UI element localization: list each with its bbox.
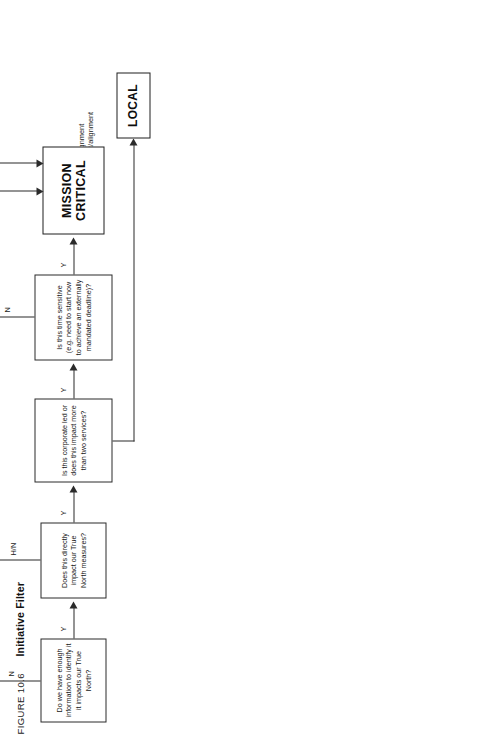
figure-title: Initiative Filter xyxy=(13,581,25,656)
outcome-mission-critical-line1: MISSION xyxy=(59,163,73,218)
decision-true-north-impact-label: Does this directly impact our True North… xyxy=(59,526,88,594)
outcome-mission-critical[interactable]: MISSION CRITICAL xyxy=(42,146,104,234)
edge-q1-no-line xyxy=(0,680,40,681)
decision-information-available-label: Do we have enough information to identif… xyxy=(54,642,92,718)
edge-label-q5-yes: Y xyxy=(58,386,67,393)
decision-information-available[interactable]: Do we have enough information to identif… xyxy=(40,638,106,722)
edge-label-q8-no: N xyxy=(2,306,11,313)
decision-true-north-impact[interactable]: Does this directly impact our True North… xyxy=(40,522,106,598)
edge-q1-yes-line xyxy=(73,606,74,638)
edge-q6-yes-arrow xyxy=(36,159,43,167)
outcome-mission-critical-line2: CRITICAL xyxy=(73,160,87,221)
flowchart-canvas: FIGURE 10.6 Initiative Filter Y=Yes N=No… xyxy=(0,0,487,748)
edge-q6-yes-v xyxy=(0,162,38,163)
edge-q7-yes-v2 xyxy=(0,190,38,191)
edge-q8-no-line xyxy=(0,316,34,317)
edge-q8-yes-arrow xyxy=(69,237,77,244)
edge-q2-yes-arrow xyxy=(69,485,77,492)
edge-label-q1-no: N xyxy=(6,670,15,677)
edge-q7-yes-arrow xyxy=(36,187,43,195)
decision-corporate-led[interactable]: Is this corporate led or does this impac… xyxy=(34,398,112,482)
edge-label-q8-yes: Y xyxy=(58,261,67,268)
edge-q5-yes-arrow xyxy=(69,363,77,370)
edge-q5-no-v xyxy=(112,440,134,441)
outcome-local[interactable]: LOCAL xyxy=(116,72,150,138)
edge-q1-yes-arrow xyxy=(69,601,77,608)
decision-corporate-led-label: Is this corporate led or does this impac… xyxy=(59,402,88,478)
edge-label-q1-yes: Y xyxy=(58,625,67,632)
edge-q8-yes-line xyxy=(73,242,74,274)
edge-label-q2-yes: Y xyxy=(58,509,67,516)
edge-q5-no-arrow xyxy=(129,138,137,145)
figure-number: FIGURE 10.6 xyxy=(14,673,25,734)
edge-q5-no-h xyxy=(133,143,134,441)
edge-q2-hn-line xyxy=(0,559,40,560)
figure-page: FIGURE 10.6 Initiative Filter Y=Yes N=No… xyxy=(0,0,487,748)
edge-q2-yes-line xyxy=(73,490,74,522)
decision-time-sensitive-c-label: Is this time sensitive (e.g. need to sta… xyxy=(54,278,92,356)
edge-label-q2-hn: H/N xyxy=(8,541,17,556)
decision-time-sensitive-c[interactable]: Is this time sensitive (e.g. need to sta… xyxy=(34,274,112,360)
edge-q5-yes-line xyxy=(73,368,74,398)
